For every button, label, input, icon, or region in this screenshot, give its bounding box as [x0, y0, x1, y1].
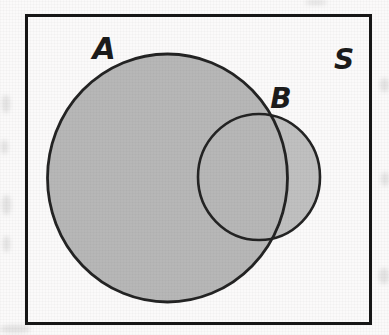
set-b-label: B — [270, 82, 291, 115]
universe-label: S — [334, 43, 354, 76]
venn-diagram: A B S — [0, 0, 389, 335]
set-a-label: A — [90, 31, 115, 66]
scanned-figure: A B S — [0, 0, 389, 335]
